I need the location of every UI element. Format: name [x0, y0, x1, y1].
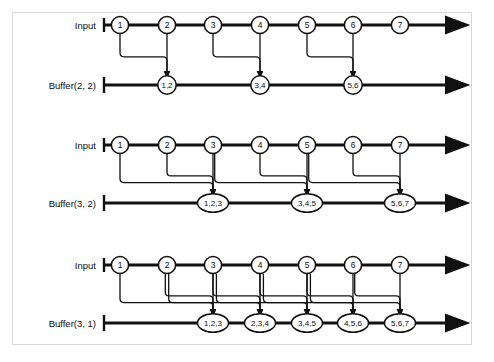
buffer-node-label: 3,4,5 [298, 199, 316, 208]
buffer-node[interactable]: 5,6 [344, 76, 362, 94]
input-node[interactable]: 6 [344, 256, 361, 273]
buffer-node[interactable]: 5,6,7 [385, 194, 416, 212]
input-node[interactable]: 4 [251, 16, 268, 33]
input-row-label: Input [75, 260, 96, 271]
input-node-label: 1 [118, 260, 123, 270]
buffer-node-label: 1,2,3 [204, 319, 222, 328]
buffer-node-label: 1,2,3 [204, 199, 222, 208]
input-node[interactable]: 2 [158, 256, 175, 273]
connector-elbow [167, 154, 213, 190]
buffer-row-label: Buffer(2, 2) [49, 80, 96, 91]
input-node[interactable]: 2 [158, 16, 175, 33]
input-node-label: 7 [398, 20, 403, 30]
diagram-canvas: InputBuffer(2, 2)12345671,23,45,6InputBu… [0, 0, 494, 362]
input-node[interactable]: 1 [111, 136, 128, 153]
input-node-label: 2 [165, 260, 170, 270]
buffer-node-label: 3,4 [254, 81, 266, 90]
input-node[interactable]: 3 [204, 16, 221, 33]
buffer-node[interactable]: 1,2,3 [198, 194, 229, 212]
buffer-node-label: 5,6 [347, 81, 359, 90]
input-node-label: 3 [211, 260, 216, 270]
buffer-node[interactable]: 3,4,5 [292, 194, 323, 212]
buffer-row-label: Buffer(3, 2) [49, 198, 96, 209]
input-node[interactable]: 7 [391, 136, 408, 153]
input-node[interactable]: 4 [251, 256, 268, 273]
connector-elbow [169, 274, 260, 310]
buffer-node[interactable]: 1,2 [158, 76, 176, 94]
buffer-row-label: Buffer(3, 1) [49, 318, 96, 329]
input-node-label: 6 [351, 20, 356, 30]
input-node-label: 1 [118, 140, 123, 150]
connector-group [120, 274, 400, 310]
input-node-label: 6 [351, 260, 356, 270]
connector-elbow [307, 34, 353, 72]
input-node-label: 3 [211, 140, 216, 150]
input-node-label: 2 [165, 20, 170, 30]
connector-elbow [355, 274, 400, 310]
buffer-node[interactable]: 3,4,5 [292, 314, 323, 332]
input-node-label: 1 [118, 20, 123, 30]
input-node[interactable]: 1 [111, 256, 128, 273]
buffer-node[interactable]: 5,6,7 [385, 314, 416, 332]
input-node-label: 6 [351, 140, 356, 150]
buffer-node[interactable]: 4,5,6 [338, 314, 369, 332]
input-node-label: 2 [165, 140, 170, 150]
input-node-label: 5 [305, 140, 310, 150]
input-node-label: 5 [305, 20, 310, 30]
buffer-node[interactable]: 3,4 [251, 76, 269, 94]
input-node-label: 3 [211, 20, 216, 30]
buffer-node[interactable]: 2,3,4 [245, 314, 276, 332]
connector-elbow [165, 274, 213, 310]
input-node-label: 5 [305, 260, 310, 270]
connector-elbow [213, 274, 260, 310]
input-node[interactable]: 7 [391, 256, 408, 273]
input-node[interactable]: 5 [298, 136, 315, 153]
input-node-label: 4 [258, 260, 263, 270]
input-node[interactable]: 6 [344, 136, 361, 153]
connector-elbow [213, 34, 260, 72]
input-node[interactable]: 5 [298, 16, 315, 33]
buffer-node-label: 3,4,5 [298, 319, 316, 328]
panel-2: InputBuffer(3, 2)12345671,2,33,4,55,6,7 [49, 136, 448, 212]
connector-group [120, 154, 400, 190]
connector-group [120, 34, 353, 72]
input-row-label: Input [75, 20, 96, 31]
panel-3: InputBuffer(3, 1)12345671,2,32,3,43,4,54… [49, 256, 448, 332]
input-node[interactable]: 5 [298, 256, 315, 273]
connector-elbow [353, 154, 400, 190]
connector-elbow [260, 274, 307, 310]
input-node-label: 4 [258, 20, 263, 30]
input-node[interactable]: 3 [204, 136, 221, 153]
buffer-node-label: 2,3,4 [251, 319, 269, 328]
buffer-node-label: 5,6,7 [391, 199, 409, 208]
input-node-label: 7 [398, 260, 403, 270]
buffer-node-label: 1,2 [161, 81, 173, 90]
connector-elbow [216, 274, 307, 310]
input-node[interactable]: 1 [111, 16, 128, 33]
connector-elbow [120, 274, 213, 310]
connector-elbow [120, 34, 167, 72]
connector-elbow [307, 274, 353, 310]
input-node[interactable]: 4 [251, 136, 268, 153]
connector-elbow [215, 154, 307, 190]
panel-1: InputBuffer(2, 2)12345671,23,45,6 [49, 16, 448, 94]
input-node[interactable]: 2 [158, 136, 175, 153]
input-row-label: Input [75, 140, 96, 151]
input-node[interactable]: 6 [344, 16, 361, 33]
input-node-label: 7 [398, 140, 403, 150]
connector-elbow [260, 154, 307, 190]
buffer-node-label: 5,6,7 [391, 319, 409, 328]
input-node[interactable]: 7 [391, 16, 408, 33]
connector-elbow [263, 274, 353, 310]
connector-elbow [309, 154, 400, 190]
buffer-node[interactable]: 1,2,3 [198, 314, 229, 332]
buffer-node-label: 4,5,6 [344, 319, 362, 328]
input-node[interactable]: 3 [204, 256, 221, 273]
input-node-label: 4 [258, 140, 263, 150]
